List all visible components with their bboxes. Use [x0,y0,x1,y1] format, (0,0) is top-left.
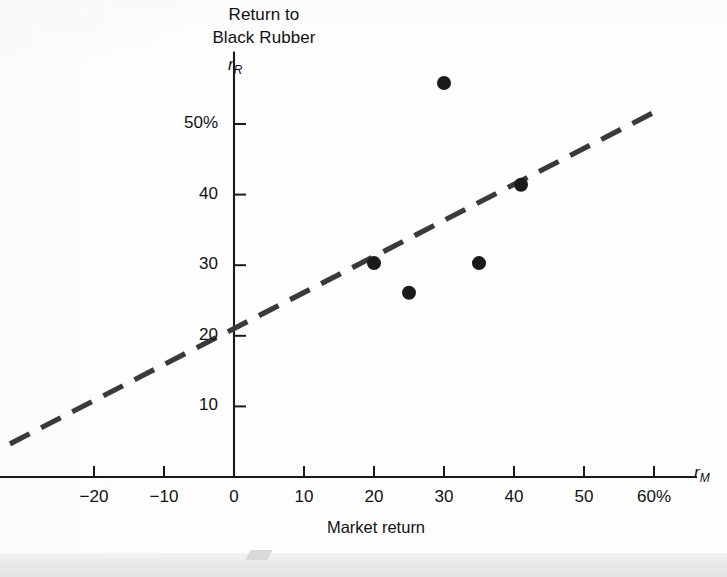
x-axis-tick-label: 50 [554,487,614,507]
scatter-point [367,256,381,270]
data-points [367,76,528,300]
x-axis-tick-label: −10 [134,487,194,507]
x-axis-tick-label: 30 [414,487,474,507]
axes-group [0,51,697,478]
scatter-point [472,256,486,270]
chart-figure: Return to Black Rubber rR rM −20−1001020… [0,0,727,577]
y-axis-tick-label: 40 [158,184,218,204]
page-edge-band [0,553,727,577]
y-axis-tick-label: 30 [158,254,218,274]
scatter-point [514,178,528,192]
scatter-point [402,286,416,300]
x-axis-tick-label: 20 [344,487,404,507]
x-axis-tick-label: 10 [274,487,334,507]
regression-dashed-line [10,113,652,443]
x-axis-caption: Market return [256,518,496,537]
regression-line [10,113,652,443]
x-axis-tick-label: 40 [484,487,544,507]
x-axis-tick-label: 0 [204,487,264,507]
y-axis-tick-label: 20 [158,325,218,345]
y-axis-tick-label: 10 [158,395,218,415]
x-axis-tick-label: −20 [64,487,124,507]
scatter-point [437,76,451,90]
y-axis-tick-label: 50% [158,113,218,133]
x-axis-tick-label: 60% [624,487,684,507]
